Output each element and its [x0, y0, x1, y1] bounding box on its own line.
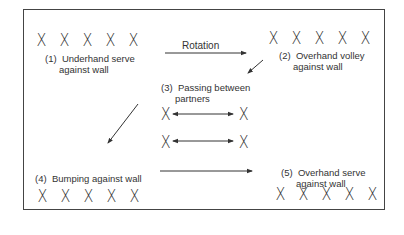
arrow-2-to-3 — [248, 60, 263, 73]
arrow-3-to-4 — [108, 104, 138, 143]
arrows-layer — [0, 0, 404, 235]
